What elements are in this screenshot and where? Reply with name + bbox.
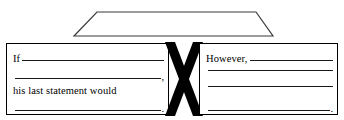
right-line-1-prompt: However, [206,53,250,64]
left-line-3-text: his last statement would [13,85,117,96]
right-line-4-blank[interactable] [208,110,330,111]
right-line-4[interactable]: . [206,103,333,114]
left-line-2-blank[interactable] [15,78,161,79]
left-box-content: If , his last statement would . [7,44,168,114]
left-line-2[interactable]: , [13,71,164,82]
left-line-1[interactable]: If [13,53,164,64]
right-line-3-blank[interactable] [208,86,333,87]
right-line-1[interactable]: However, [206,53,333,64]
left-answer-box[interactable]: If , his last statement would . [6,43,169,115]
right-line-2[interactable] [206,71,333,72]
right-line-3[interactable] [206,87,333,88]
right-line-2-blank[interactable] [208,70,333,71]
left-line-4[interactable]: . [13,103,164,114]
right-line-4-punctuation: . [330,103,333,114]
right-answer-box[interactable]: However, . [199,43,338,115]
left-line-4-blank[interactable] [15,110,161,111]
trapezoid-banner [0,0,344,44]
trapezoid-shape-icon [0,0,344,44]
left-line-1-blank[interactable] [22,60,164,61]
right-box-content: However, . [200,44,337,114]
worksheet-diagram: If , his last statement would . [0,0,344,120]
right-line-1-blank[interactable] [250,60,334,61]
left-line-1-prompt: If [13,53,22,64]
trapezoid-outline [74,12,273,36]
